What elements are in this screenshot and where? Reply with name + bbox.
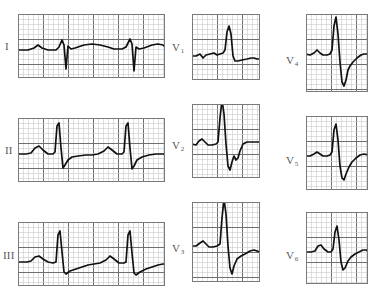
lead-label-v4: V4	[286, 55, 298, 66]
lead-label-text: V	[172, 139, 180, 151]
ecg-panel-v4	[306, 14, 368, 92]
lead-label-text: V	[286, 154, 294, 166]
lead-label-v3: V3	[172, 243, 184, 254]
panel-inner	[18, 222, 165, 286]
panel-inner	[192, 202, 260, 282]
lead-label-text: II	[5, 144, 13, 156]
lead-label-i: I	[5, 41, 9, 52]
panel-inner	[306, 212, 368, 284]
ecg-panel-v3	[192, 202, 260, 282]
panel-inner	[306, 14, 368, 92]
ecg-panel-v5	[306, 116, 368, 190]
ecg-trace	[18, 222, 165, 286]
ecg-panel-v2	[192, 104, 260, 178]
ecg-panel-v6	[306, 212, 368, 284]
ecg-trace	[306, 116, 368, 190]
ecg-panel-v1	[192, 14, 260, 80]
ecg-waveform-path	[192, 26, 260, 61]
lead-label-subscript: 6	[295, 255, 299, 263]
ecg-waveform-path	[18, 231, 165, 275]
panel-inner	[192, 14, 260, 80]
ecg-waveform-path	[18, 123, 165, 169]
ecg-panel-ii	[18, 118, 165, 182]
lead-label-subscript: 3	[181, 248, 185, 256]
ecg-waveform-path	[306, 17, 368, 86]
ecg-trace	[18, 14, 165, 78]
ecg-trace	[306, 212, 368, 284]
lead-label-v6: V6	[286, 250, 298, 261]
ecg-trace	[192, 14, 260, 80]
panel-inner	[18, 118, 165, 182]
lead-label-subscript: 4	[295, 60, 299, 68]
lead-label-text: V	[286, 249, 294, 261]
lead-label-v1: V1	[172, 42, 184, 53]
ecg-trace	[306, 14, 368, 92]
ecg-trace	[18, 118, 165, 182]
ecg-panel-iii	[18, 222, 165, 286]
lead-label-ii: II	[5, 145, 13, 156]
ecg-sheet: IIIIIIV1V2V3V4V5V6	[0, 0, 372, 295]
ecg-waveform-path	[192, 202, 260, 274]
ecg-waveform-path	[192, 104, 260, 170]
lead-label-subscript: 5	[295, 160, 299, 168]
panel-inner	[18, 14, 165, 78]
lead-label-v5: V5	[286, 155, 298, 166]
lead-label-iii: III	[3, 250, 15, 261]
lead-label-text: V	[286, 54, 294, 66]
lead-label-subscript: 1	[181, 47, 185, 55]
lead-label-text: I	[5, 40, 9, 52]
ecg-waveform-path	[18, 39, 165, 71]
ecg-waveform-path	[306, 124, 368, 180]
ecg-panel-i	[18, 14, 165, 78]
lead-label-subscript: 2	[181, 145, 185, 153]
panel-inner	[306, 116, 368, 190]
panel-inner	[192, 104, 260, 178]
ecg-trace	[192, 202, 260, 282]
lead-label-text: III	[3, 249, 15, 261]
ecg-trace	[192, 104, 260, 178]
lead-label-text: V	[172, 41, 180, 53]
lead-label-v2: V2	[172, 140, 184, 151]
lead-label-text: V	[172, 242, 180, 254]
ecg-waveform-path	[306, 226, 368, 270]
